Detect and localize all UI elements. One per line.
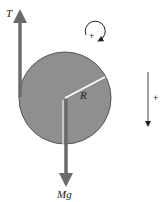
tension-label: T [6, 7, 13, 19]
linear-positive-label: + [153, 93, 158, 103]
weight-label: Mg [56, 188, 72, 200]
radius-label: R [79, 89, 87, 101]
pulley-free-body-diagram: R T Mg + + [0, 0, 167, 202]
rotation-positive-label: + [89, 31, 94, 41]
